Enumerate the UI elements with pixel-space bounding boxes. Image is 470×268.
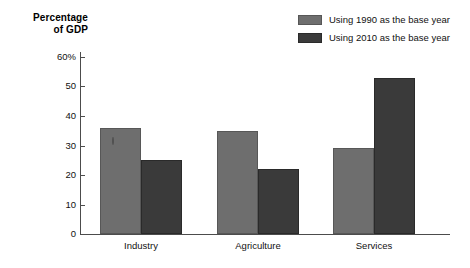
y-axis-title-line1: Percentage [6, 12, 88, 24]
y-tick-60 [80, 57, 85, 58]
scan-artifact [112, 137, 114, 145]
y-tick-label-40: 40 [20, 111, 76, 121]
legend-swatch-1990-icon [298, 15, 322, 25]
legend-item-1990: Using 1990 as the base year [298, 12, 450, 27]
y-tick-0 [80, 234, 85, 235]
y-tick-50 [80, 86, 85, 87]
bar-agriculture-2010 [258, 169, 299, 234]
y-axis-line [80, 52, 81, 234]
y-tick-label-20: 20 [20, 170, 76, 180]
bar-chart: Percentage of GDP 60% 50 40 30 20 10 0 I… [0, 0, 470, 268]
y-tick-10 [80, 205, 85, 206]
bar-agriculture-1990 [217, 131, 258, 234]
bar-services-1990 [333, 148, 374, 234]
legend-item-2010: Using 2010 as the base year [298, 30, 450, 45]
y-axis-title: Percentage of GDP [6, 12, 88, 36]
x-axis-line [80, 234, 450, 235]
x-label-industry: Industry [86, 240, 196, 252]
legend: Using 1990 as the base year Using 2010 a… [298, 12, 450, 48]
legend-swatch-2010-icon [298, 33, 322, 43]
x-label-services: Services [319, 240, 429, 252]
y-tick-label-50: 50 [20, 81, 76, 91]
bar-industry-1990 [100, 128, 141, 234]
legend-label-1990: Using 1990 as the base year [329, 14, 450, 25]
y-tick-label-10: 10 [20, 200, 76, 210]
legend-label-2010: Using 2010 as the base year [329, 32, 450, 43]
y-axis-title-line2: of GDP [6, 24, 88, 36]
x-label-agriculture: Agriculture [203, 240, 313, 252]
y-tick-label-0: 0 [20, 229, 76, 239]
y-tick-label-60: 60% [20, 52, 76, 62]
y-tick-30 [80, 146, 85, 147]
y-tick-20 [80, 175, 85, 176]
y-tick-40 [80, 116, 85, 117]
y-tick-label-30: 30 [20, 141, 76, 151]
bar-industry-2010 [141, 160, 182, 234]
bar-services-2010 [374, 78, 415, 234]
